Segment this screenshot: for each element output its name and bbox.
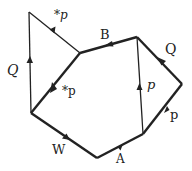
label-starp-mid: *p xyxy=(62,84,76,98)
arrow-upleft-icon xyxy=(50,27,56,34)
label-w: W xyxy=(52,142,66,157)
label-starp-top: *p xyxy=(54,8,68,22)
label-p-inner: p xyxy=(147,77,156,92)
edge-starp-mid xyxy=(31,53,80,113)
edge-p-inner xyxy=(137,37,144,134)
label-b: B xyxy=(100,27,110,42)
edge-q-left xyxy=(27,12,34,113)
feynman-style-diagram: Q *p *p B Q p p W A xyxy=(0,0,192,171)
arrow-up-icon xyxy=(27,56,34,63)
label-q-right: Q xyxy=(165,41,176,57)
arrow-up-icon xyxy=(137,83,143,90)
label-p-right: p xyxy=(170,107,178,122)
label-q-left: Q xyxy=(7,62,19,78)
label-a: A xyxy=(115,152,125,166)
